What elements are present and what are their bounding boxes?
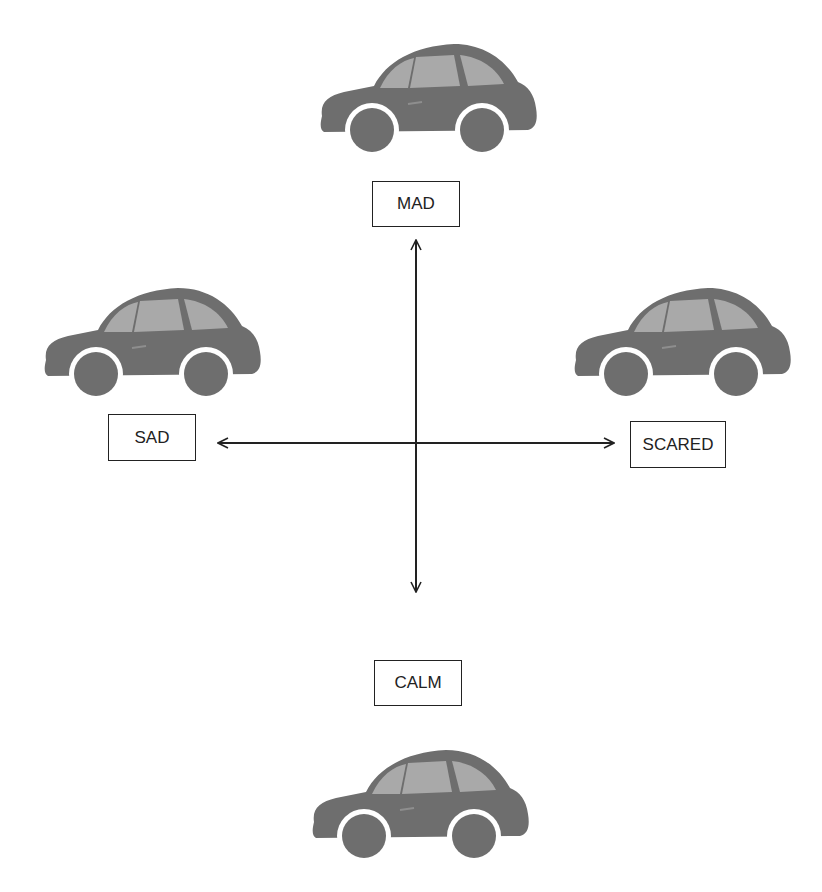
label-mad: MAD [372, 181, 460, 227]
label-sad: SAD [108, 414, 196, 461]
car-icon-top [321, 44, 537, 157]
car-icon-bottom [313, 750, 529, 863]
car-icon-left [45, 288, 261, 401]
label-calm: CALM [374, 660, 462, 706]
label-scared: SCARED [630, 421, 726, 468]
car-icon-right [575, 288, 791, 401]
